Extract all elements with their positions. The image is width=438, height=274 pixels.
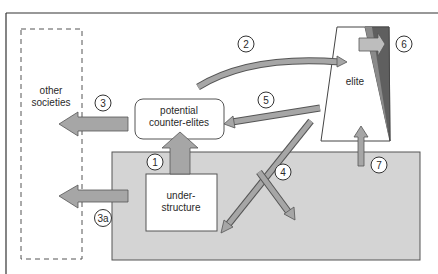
elite-circulation-diagram: other societies under- structure potenti…: [0, 0, 438, 274]
marker-2: 2: [238, 36, 254, 52]
svg-text:4: 4: [280, 167, 286, 178]
understructure-label: under-: [167, 190, 196, 201]
marker-7: 7: [371, 157, 387, 173]
marker-6: 6: [396, 36, 412, 52]
other-societies-label-2: societies: [32, 97, 71, 108]
elite-label: elite: [346, 76, 365, 87]
counter-elites-label-2: counter-elites: [149, 117, 209, 128]
svg-text:2: 2: [243, 39, 249, 50]
counter-elites-label: potential: [160, 105, 198, 116]
other-societies-label: other: [40, 85, 63, 96]
marker-3: 3: [95, 95, 111, 111]
other-societies-box: [21, 29, 82, 259]
understructure-label-2: structure: [162, 202, 201, 213]
marker-4: 4: [275, 164, 291, 180]
marker-5: 5: [258, 92, 274, 108]
arrow-2-icon: [198, 56, 347, 87]
marker-3a: 3a: [95, 210, 112, 227]
svg-text:3: 3: [100, 98, 106, 109]
svg-text:5: 5: [263, 95, 269, 106]
svg-text:1: 1: [152, 157, 158, 168]
marker-1: 1: [147, 154, 163, 170]
arrow-3-icon: [59, 112, 128, 136]
svg-text:6: 6: [401, 39, 407, 50]
svg-text:7: 7: [376, 160, 382, 171]
svg-text:3a: 3a: [97, 213, 109, 224]
